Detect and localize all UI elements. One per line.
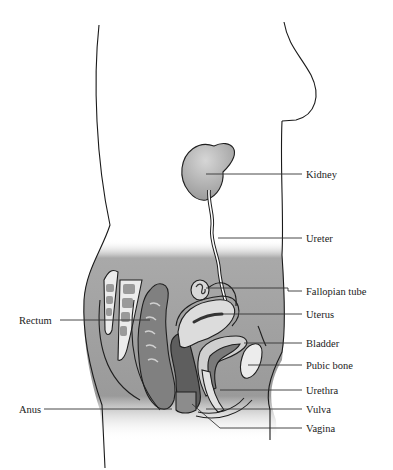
label-rectum: Rectum [19,315,52,326]
label-kidney: Kidney [306,169,338,180]
anatomy-diagram: Kidney Ureter Fallopian tube Uterus Blad… [0,0,393,470]
label-uterus: Uterus [306,309,334,320]
label-vagina: Vagina [306,423,335,434]
label-urethra: Urethra [306,385,338,396]
label-ureter: Ureter [306,233,333,244]
front-outline-chest [282,22,316,121]
label-pubic-bone: Pubic bone [306,360,353,371]
label-fallopian-tube: Fallopian tube [306,286,367,297]
label-bladder: Bladder [306,338,340,349]
label-anus: Anus [19,404,41,415]
label-vulva: Vulva [306,404,331,415]
